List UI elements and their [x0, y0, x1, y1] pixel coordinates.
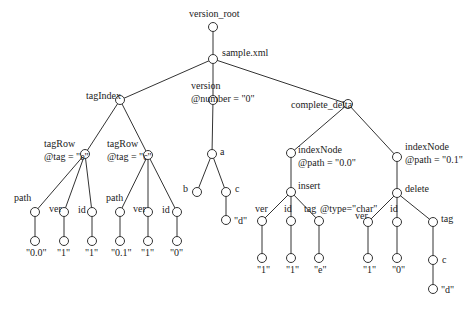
node-label-c2: c — [442, 254, 446, 265]
node-label-v1b: "1" — [85, 247, 98, 258]
node-label-text: "e" — [314, 264, 327, 275]
node-label-text: indexNode — [298, 144, 356, 155]
node-label-text: path — [14, 192, 31, 203]
node-v00 — [31, 237, 40, 246]
edge-version-a — [212, 100, 213, 154]
node-label-v00: "0.0" — [26, 247, 47, 258]
node-label-tagRow_c: tagRow@tag = "c" — [107, 138, 152, 162]
node-tag4 — [429, 218, 438, 227]
node-label-v1a: "1" — [57, 247, 70, 258]
node-label-id2: id — [162, 204, 170, 215]
node-label-id3: id — [284, 203, 292, 214]
node-label-text: "d" — [234, 215, 247, 226]
node-label-tag3: tag — [304, 203, 316, 214]
node-label-text: c — [235, 183, 239, 194]
node-delete — [393, 189, 402, 198]
node-label-text: sample.xml — [222, 47, 268, 58]
node-path1 — [31, 208, 40, 217]
node-label-d1: "d" — [234, 215, 247, 226]
node-v1c — [144, 237, 153, 246]
node-label-a: a — [220, 146, 224, 157]
node-label-text: version — [191, 80, 255, 91]
node-v1a — [60, 237, 69, 246]
node-label-ver1: ver — [49, 203, 62, 214]
node-label-v1c: "1" — [141, 247, 154, 258]
node-attribute-text: @tag = "e" — [44, 151, 89, 162]
node-label-sample_xml: sample.xml — [222, 47, 268, 58]
node-label-text: "0" — [392, 264, 405, 275]
node-tag3 — [315, 217, 324, 226]
node-v01 — [116, 237, 125, 246]
node-label-text: "1" — [57, 247, 70, 258]
node-label-text: insert — [298, 180, 320, 191]
node-ve — [315, 254, 324, 263]
node-label-b: b — [183, 183, 188, 194]
node-label-delete: delete — [405, 183, 429, 194]
node-label-text: a — [220, 146, 224, 157]
node-label-text: tagRow — [107, 138, 152, 149]
node-label-text: tag — [304, 203, 316, 214]
node-label-text: indexNode — [405, 141, 463, 152]
node-version_root — [209, 23, 218, 32]
node-label-text: "1" — [286, 264, 299, 275]
node-label-insert: insert — [298, 180, 320, 191]
node-label-version_root: version_root — [189, 8, 240, 19]
node-attribute-text: @number = "0" — [191, 93, 255, 104]
node-v0b — [393, 254, 402, 263]
node-label-text: id — [162, 204, 170, 215]
node-label-text: ver — [49, 203, 62, 214]
node-c2 — [429, 256, 438, 265]
node-label-text: "0" — [170, 247, 183, 258]
node-label-text: delete — [405, 183, 429, 194]
node-d2 — [429, 285, 438, 294]
edge-tagRow_e-id1 — [85, 154, 92, 212]
node-label-indexNode_01: indexNode@path = "0.1" — [405, 141, 463, 165]
node-label-text: ver — [255, 203, 268, 214]
node-label-text: "1" — [85, 247, 98, 258]
edge-delete-tag4 — [397, 193, 433, 222]
node-label-complete_delta: complete_delta — [291, 99, 352, 110]
node-d1 — [222, 216, 231, 225]
node-label-text: ver — [133, 203, 146, 214]
node-label-id1: id — [78, 204, 86, 215]
node-id3 — [287, 217, 296, 226]
node-label-text: id — [284, 203, 292, 214]
node-v0a — [173, 237, 182, 246]
node-v1f — [364, 254, 373, 263]
node-label-text: "d" — [441, 284, 454, 295]
node-v1e — [287, 254, 296, 263]
edge-a-c1 — [212, 154, 226, 192]
node-label-text: "0.0" — [26, 247, 47, 258]
node-label-text: id — [78, 204, 86, 215]
node-label-d2: "d" — [441, 284, 454, 295]
node-label-ver3: ver — [255, 203, 268, 214]
node-path2 — [116, 208, 125, 217]
node-v1b — [88, 237, 97, 246]
node-attribute-text: @path = "0.0" — [298, 157, 356, 168]
node-attribute-text: @tag = "c" — [107, 151, 152, 162]
node-label-v0b: "0" — [392, 264, 405, 275]
node-label-text: tagIndex — [86, 90, 121, 101]
node-label-ve: "e" — [314, 264, 327, 275]
node-attribute-text: @path = "0.1" — [405, 154, 463, 165]
node-v1d — [258, 254, 267, 263]
node-label-ver2: ver — [133, 203, 146, 214]
node-indexNode_01 — [393, 153, 402, 162]
node-label-text: "1" — [141, 247, 154, 258]
node-label-text: version_root — [189, 8, 240, 19]
node-label-id4: id — [390, 203, 398, 214]
node-id2 — [173, 208, 182, 217]
node-label-tagIndex: tagIndex — [86, 90, 121, 101]
xml-version-tree-diagram: version_rootsample.xmltagIndexversion@nu… — [0, 0, 467, 309]
node-label-text: tag — [441, 213, 453, 224]
node-label-tagRow_e: tagRow@tag = "e" — [44, 138, 89, 162]
node-label-indexNode_00: indexNode@path = "0.0" — [298, 144, 356, 168]
node-a — [208, 150, 217, 159]
node-label-path2: path — [106, 192, 123, 203]
node-label-text: "0.1" — [111, 247, 132, 258]
node-label-text: c — [442, 254, 446, 265]
node-label-text: "1" — [257, 264, 270, 275]
node-indexNode_00 — [287, 149, 296, 158]
node-sample_xml — [209, 55, 218, 64]
node-id1 — [88, 208, 97, 217]
